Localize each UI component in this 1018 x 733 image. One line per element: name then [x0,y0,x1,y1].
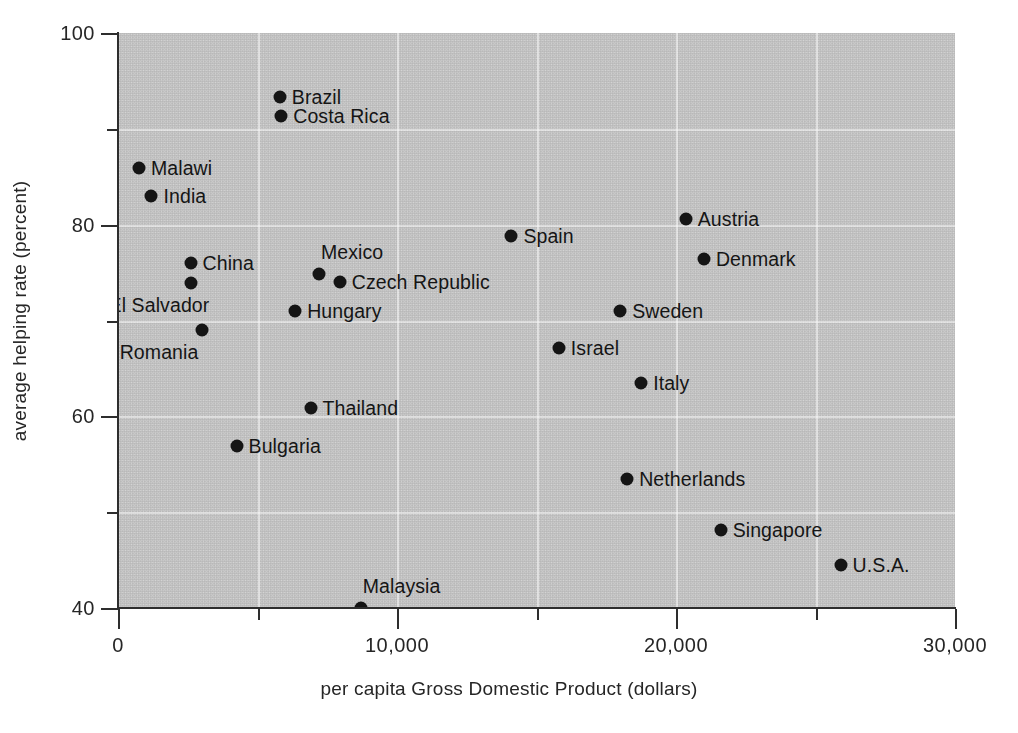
data-point-label: Austria [698,207,759,230]
data-point-label: Denmark [716,248,796,271]
data-point-label: Malawi [151,157,212,180]
data-point-label: Costa Rica [293,105,389,128]
data-point-label: Singapore [733,519,823,542]
y-tick-major [101,225,118,227]
x-tick-major [397,609,399,629]
data-point [289,304,302,317]
data-point [834,558,847,571]
x-tick-minor [537,609,539,620]
data-point-label: Malaysia [363,575,441,598]
gridline-horizontal [118,129,955,131]
y-tick-major [101,608,118,610]
x-tick-minor [816,609,818,620]
data-point-label: Sweden [632,299,703,322]
data-point [275,110,288,123]
x-tick-label: 0 [112,634,124,657]
y-tick-major [101,33,118,35]
x-tick-major [955,609,957,629]
data-point [312,267,325,280]
data-point-label: Israel [571,337,619,360]
y-tick-minor [107,512,118,514]
y-tick-minor [107,321,118,323]
data-point [714,524,727,537]
data-point [679,212,692,225]
plot-area: BrazilCosta RicaMalawiIndiaAustriaSpainD… [118,33,955,608]
data-point-label: Mexico [321,240,383,263]
data-point-label: Czech Republic [352,271,490,294]
y-tick-label: 40 [0,597,95,620]
data-point [635,376,648,389]
data-point [184,257,197,270]
data-point-label: Romania [120,341,199,364]
data-point [304,401,317,414]
data-point-label: Hungary [307,299,381,322]
data-point-label: India [163,184,206,207]
data-point-label: Spain [523,225,573,248]
y-axis-label: average helping rate (percent) [9,76,31,546]
data-point [614,304,627,317]
data-point [552,342,565,355]
x-tick-label: 10,000 [365,634,429,657]
gridline-horizontal [118,512,955,514]
data-point-label: Thailand [323,396,399,419]
data-point [333,276,346,289]
data-point [273,91,286,104]
data-point [697,253,710,266]
gridline-horizontal [118,321,955,323]
gridline-horizontal [118,416,955,418]
x-axis-label: per capita Gross Domestic Product (dolla… [0,678,1018,700]
data-point [505,230,518,243]
x-tick-major [676,609,678,629]
x-tick-label: 30,000 [923,634,987,657]
data-point-label: China [203,252,254,275]
data-point [621,472,634,485]
data-point-label: U.S.A. [853,553,910,576]
data-point [230,440,243,453]
data-point-label: Bulgaria [249,435,321,458]
data-point-label: Netherlands [639,467,745,490]
x-tick-label: 20,000 [644,634,708,657]
y-tick-label: 100 [0,22,95,45]
data-point-label: El Salvador [118,294,209,317]
data-point-label: Italy [653,371,689,394]
x-tick-major [118,609,120,629]
data-point [145,189,158,202]
data-point [132,162,145,175]
data-point [195,324,208,337]
x-tick-minor [258,609,260,620]
scatter-plot-figure: BrazilCosta RicaMalawiIndiaAustriaSpainD… [0,0,1018,733]
y-tick-major [101,416,118,418]
data-point [184,277,197,290]
y-tick-minor [107,129,118,131]
